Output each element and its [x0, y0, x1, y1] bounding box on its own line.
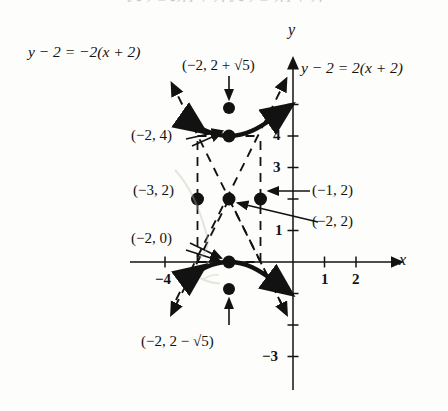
right-asymptote-equation: y − 2 = 2(x + 2): [301, 60, 403, 76]
label-corner-left: (−3, 2): [133, 183, 174, 198]
y-tick-label-1: 1: [275, 223, 283, 238]
point-focus-upper: [223, 102, 235, 114]
axis-y: [288, 68, 299, 390]
label-center: (−2, 2): [312, 214, 353, 229]
left-asymptote-equation: y − 2 = −2(x + 2): [28, 44, 140, 60]
label-vertex-upper: (−2, 4): [131, 128, 172, 143]
arrow-center: [238, 203, 318, 222]
y-axis-label: y: [288, 22, 295, 38]
y-tick-label-3: 3: [273, 160, 281, 175]
label-focus-upper: (−2, 2 + √5): [182, 58, 255, 73]
x-axis-label: x: [399, 252, 406, 268]
label-vertex-lower: (−2, 0): [131, 231, 172, 246]
x-tick-label-2: 2: [352, 272, 360, 287]
leader-arrows: [186, 76, 318, 325]
x-tick-label-neg4: −4: [155, 272, 171, 287]
point-vertex-lower: [223, 256, 236, 269]
hyperbola-figure: y - 2 = -2(x + 2) y - 2 = 2(x + 2): [0, 0, 448, 411]
y-tick-label-4: 4: [273, 128, 281, 143]
point-center: [223, 193, 236, 206]
label-focus-lower: (−2, 2 − √5): [141, 334, 214, 349]
point-focus-lower: [223, 283, 235, 295]
y-tick-label-neg3: −3: [262, 349, 278, 364]
x-tick-label-1: 1: [321, 272, 329, 287]
label-corner-right: (−1, 2): [312, 183, 353, 198]
point-vertex-upper: [223, 130, 236, 143]
point-corner-right: [254, 193, 267, 206]
